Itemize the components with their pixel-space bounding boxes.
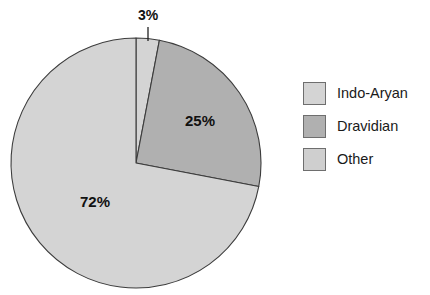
legend-item-dravidian[interactable]: Dravidian [303, 115, 430, 138]
legend-swatch-dravidian [303, 115, 326, 138]
legend-item-other[interactable]: Other [303, 148, 430, 171]
legend-swatch-other [303, 148, 326, 171]
pie-value-label-indo-aryan: 72% [80, 193, 110, 210]
legend-label-indo-aryan: Indo-Aryan [337, 86, 408, 101]
legend-item-indo-aryan[interactable]: Indo-Aryan [303, 82, 430, 105]
legend-swatch-indo-aryan [303, 82, 326, 105]
legend-label-dravidian: Dravidian [337, 119, 398, 134]
chart-legend: Indo-AryanDravidianOther [303, 82, 430, 171]
legend-label-other: Other [337, 152, 373, 167]
pie-value-label-other: 3% [138, 7, 159, 23]
pie-chart-graphic: 3%25%72% [0, 0, 290, 295]
pie-chart-figure: 3%25%72% Indo-AryanDravidianOther [0, 0, 430, 295]
pie-slice-group [11, 38, 261, 288]
pie-value-label-dravidian: 25% [185, 112, 215, 129]
